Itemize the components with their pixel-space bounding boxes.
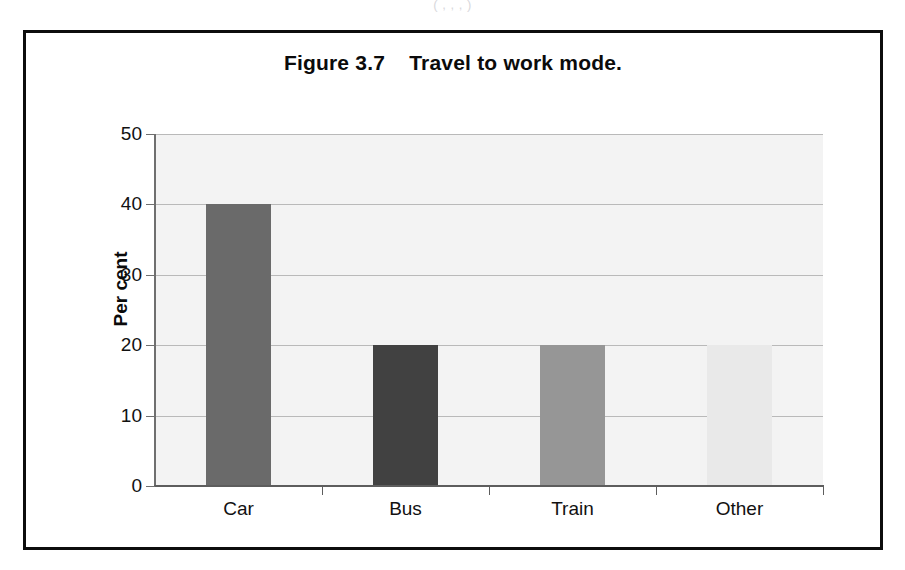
y-axis-title: Per cent	[110, 229, 132, 349]
x-axis-tick-label-car: Car	[179, 499, 299, 518]
y-axis-tick-mark	[146, 204, 155, 205]
x-axis-tick-mark	[656, 486, 657, 495]
x-axis-tick-mark	[322, 486, 323, 495]
y-axis-tick-mark	[146, 345, 155, 346]
x-axis-tick-label-other: Other	[680, 499, 800, 518]
x-axis-tick-label-train: Train	[513, 499, 633, 518]
bar-other	[707, 345, 772, 486]
scan-artifact-text: ( , , , )	[0, 0, 905, 16]
plot-area	[155, 134, 823, 486]
x-axis-tick-mark	[489, 486, 490, 495]
y-axis-tick-label: 40	[102, 194, 142, 213]
y-axis-tick-mark	[146, 275, 155, 276]
y-axis-tick-label: 10	[102, 406, 142, 425]
y-axis-tick-mark	[146, 134, 155, 135]
gridline	[155, 134, 823, 135]
x-axis-tick-mark	[823, 486, 824, 495]
y-axis-line	[154, 134, 156, 487]
figure-frame: Figure 3.7 Travel to work mode. 01020304…	[23, 30, 883, 550]
y-axis-tick-label: 0	[102, 476, 142, 495]
y-axis-tick-label: 50	[102, 124, 142, 143]
bar-car	[206, 204, 271, 486]
bar-bus	[373, 345, 438, 486]
bar-train	[540, 345, 605, 486]
x-axis-tick-label-bus: Bus	[346, 499, 466, 518]
y-axis-tick-mark	[146, 486, 155, 487]
y-axis-tick-mark	[146, 416, 155, 417]
figure-title: Figure 3.7 Travel to work mode.	[26, 51, 880, 75]
